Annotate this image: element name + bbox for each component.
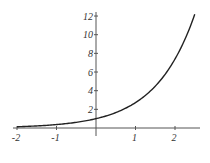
y-tick-label: 4 bbox=[88, 85, 93, 96]
axes bbox=[13, 12, 200, 136]
y-tick-label: 10 bbox=[83, 29, 93, 40]
y-tick-label: 12 bbox=[83, 11, 93, 22]
x-tick-label: 2 bbox=[172, 132, 177, 143]
x-tick-label: 1 bbox=[132, 132, 137, 143]
y-tick-label: 6 bbox=[88, 67, 93, 78]
y-tick-label: 2 bbox=[88, 104, 93, 115]
y-tick-label: 8 bbox=[88, 48, 93, 59]
tick-labels: -2-11224681012 bbox=[12, 11, 177, 143]
x-tick-label: -2 bbox=[12, 132, 20, 143]
x-tick-label: -1 bbox=[51, 132, 59, 143]
exponential-curve bbox=[17, 14, 195, 126]
exponential-chart: -2-11224681012 bbox=[0, 0, 210, 163]
